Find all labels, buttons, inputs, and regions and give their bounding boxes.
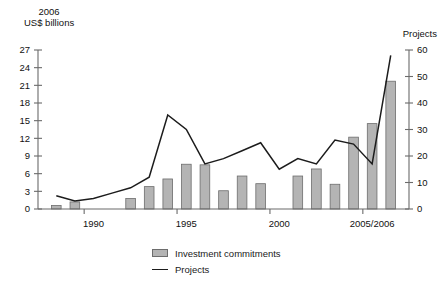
bars-group (51, 81, 395, 209)
bar-1995 (182, 164, 192, 209)
left-tick-3: 3 (25, 186, 30, 197)
right-tick-30: 30 (417, 124, 428, 135)
bar-swatch-icon (152, 249, 168, 257)
legend-item-investment-commitments: Investment commitments (152, 245, 281, 261)
right-tick-20: 20 (417, 150, 428, 161)
line-swatch-icon (152, 269, 168, 270)
right-axis-tick-labels: 0102030405060 (417, 44, 428, 214)
legend-label-projects: Projects (175, 264, 209, 275)
left-tick-6: 6 (25, 168, 30, 179)
bar-1999 (256, 184, 266, 209)
projects-line (56, 55, 390, 201)
projects-line-group (56, 55, 390, 201)
right-tick-10: 10 (417, 177, 428, 188)
bar-1998 (237, 176, 247, 209)
chart-legend: Investment commitments Projects (152, 245, 281, 277)
bar-2005 (367, 124, 377, 209)
x-tick-2000: 2000 (269, 218, 290, 229)
left-tick-18: 18 (19, 97, 30, 108)
x-tick-1995: 1995 (176, 218, 197, 229)
left-tick-15: 15 (19, 115, 30, 126)
bar-1993 (144, 187, 154, 209)
left-tick-12: 12 (19, 133, 30, 144)
bar-2003 (330, 184, 340, 209)
left-tick-21: 21 (19, 80, 30, 91)
bar-1989 (70, 202, 80, 209)
left-axis-tick-labels: 0369121518212427 (19, 44, 30, 214)
right-tick-60: 60 (417, 44, 428, 55)
x-axis-tick-labels: 1990199520002005/2006 (83, 218, 395, 229)
bar-2001 (293, 176, 303, 209)
x-tick-1990: 1990 (83, 218, 104, 229)
bar-1997 (219, 191, 229, 209)
left-tick-24: 24 (19, 62, 30, 73)
x-tick-2005-2006: 2005/2006 (350, 218, 395, 229)
left-tick-27: 27 (19, 44, 30, 55)
right-tick-50: 50 (417, 71, 428, 82)
bar-2006 (386, 81, 396, 209)
bar-1996 (200, 165, 210, 209)
right-tick-40: 40 (417, 97, 428, 108)
bar-1994 (163, 179, 173, 209)
right-tick-0: 0 (417, 203, 422, 214)
chart-figure: 2006 US$ billions Projects 0369121518212… (0, 0, 445, 291)
legend-item-projects: Projects (152, 261, 281, 277)
left-tick-0: 0 (25, 203, 30, 214)
legend-label-investment-commitments: Investment commitments (175, 248, 281, 259)
left-tick-9: 9 (25, 150, 30, 161)
bar-2002 (312, 169, 322, 209)
bar-1992 (126, 198, 136, 209)
